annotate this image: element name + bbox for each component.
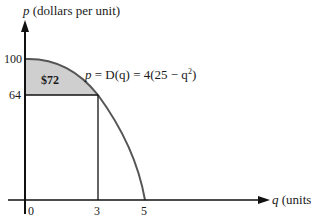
y-tick-100: 100 (4, 53, 22, 65)
area-label: $72 (41, 74, 59, 86)
x-tick-0: 0 (28, 205, 34, 217)
y-axis-arrow-icon (21, 20, 29, 32)
chart-canvas (0, 0, 311, 221)
y-tick-64: 64 (9, 89, 21, 101)
equation-label: p = D(q) = 4(25 − q2) (85, 68, 196, 81)
y-axis-label: p (dollars per unit) (23, 4, 120, 17)
x-axis-arrow-icon (258, 196, 270, 204)
x-axis-label: q (units) (272, 193, 311, 206)
x-tick-5: 5 (141, 205, 147, 217)
x-tick-3: 3 (94, 205, 100, 217)
